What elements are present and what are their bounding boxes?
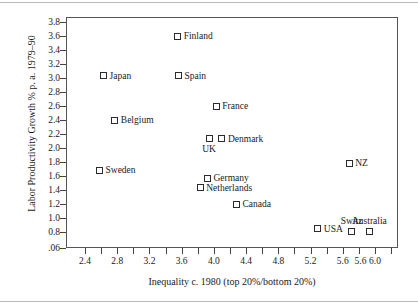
- y-axis-tick: [60, 232, 66, 233]
- y-axis-tick-label: 2.8: [34, 87, 60, 97]
- page-rule-top: [0, 2, 418, 3]
- x-axis-tick-label: 2.8: [102, 256, 132, 267]
- y-axis-tick-label: 0.8: [34, 227, 60, 237]
- x-axis-tick: [101, 248, 102, 254]
- data-point-label: Sweden: [106, 165, 136, 175]
- y-axis-tick-label: 2.0: [34, 143, 60, 153]
- x-axis-tick-label: 5.2: [296, 256, 326, 267]
- x-axis-tick-label: 2.4: [70, 256, 100, 267]
- x-axis-tick: [166, 248, 167, 254]
- x-axis-tick-label: 4.4: [231, 256, 261, 267]
- data-point-marker: [213, 103, 220, 110]
- x-axis-tick: [327, 248, 328, 254]
- x-axis-tick: [262, 248, 263, 254]
- y-axis-tick: [60, 248, 66, 249]
- x-axis-title: Inequality c. 1980 (top 20%/bottom 20%): [66, 276, 398, 287]
- data-point-label: Spain: [184, 71, 206, 81]
- x-axis-tick: [149, 248, 150, 254]
- y-axis-tick-label: .06: [34, 243, 60, 253]
- x-axis-tick: [85, 248, 86, 254]
- data-point-marker: [366, 228, 373, 235]
- x-axis-tick: [133, 248, 134, 254]
- y-axis-tick-label: 1.0: [34, 213, 60, 223]
- y-axis-tick-label: 2.4: [34, 115, 60, 125]
- y-axis-tick: [60, 162, 66, 163]
- y-axis-tick: [60, 190, 66, 191]
- data-point-marker: [314, 225, 321, 232]
- x-axis-tick-label: 3.2: [134, 256, 164, 267]
- data-point-marker: [206, 135, 213, 142]
- data-point-marker: [233, 201, 240, 208]
- data-point-label: NZ: [355, 158, 368, 168]
- y-axis-tick: [60, 78, 66, 79]
- y-axis-tick-label: 3.4: [34, 45, 60, 55]
- y-axis-tick-label: 1.4: [34, 185, 60, 195]
- y-axis-tick-label: 1.8: [34, 157, 60, 167]
- y-axis-tick: [60, 176, 66, 177]
- x-axis-tick: [359, 248, 360, 254]
- data-point-label: Japan: [110, 71, 132, 81]
- data-point-marker: [348, 228, 355, 235]
- page-rule-bottom: [0, 301, 418, 302]
- data-point-label: Australia: [352, 216, 387, 226]
- x-axis-tick: [311, 248, 312, 254]
- data-point-label: Belgium: [121, 115, 154, 125]
- data-point-label: France: [222, 101, 248, 111]
- y-axis-tick: [60, 120, 66, 121]
- x-axis-tick: [117, 248, 118, 254]
- x-axis-tick-label: 3.6: [167, 256, 197, 267]
- y-axis-tick-label: 1.6: [34, 171, 60, 181]
- data-point-marker: [175, 72, 182, 79]
- x-axis-tick: [391, 248, 392, 254]
- x-axis-tick: [214, 248, 215, 254]
- data-point-marker: [100, 72, 107, 79]
- y-axis-tick: [60, 36, 66, 37]
- y-axis-tick-label: 3.2: [34, 59, 60, 69]
- y-axis-tick: [60, 92, 66, 93]
- x-axis-tick: [375, 248, 376, 254]
- y-axis-tick: [60, 204, 66, 205]
- y-axis-tick-label: 1.2: [34, 199, 60, 209]
- y-axis-tick-label: 3.8: [34, 17, 60, 27]
- data-point-label: Finland: [184, 31, 213, 41]
- data-point-marker: [218, 135, 225, 142]
- x-axis-tick: [278, 248, 279, 254]
- data-point-marker: [111, 117, 118, 124]
- y-axis-tick-label: 3.0: [34, 73, 60, 83]
- y-axis-tick: [60, 134, 66, 135]
- x-axis-tick: [198, 248, 199, 254]
- data-point-label: Netherlands: [206, 183, 252, 193]
- data-point-label: Canada: [242, 199, 271, 209]
- data-point-label: UK: [202, 144, 216, 154]
- y-axis-title: Labor Productivity Growth % p. a. 1979–9…: [26, 9, 37, 239]
- data-point-label: Denmark: [228, 134, 263, 144]
- y-axis-tick: [60, 106, 66, 107]
- x-axis-tick: [182, 248, 183, 254]
- y-axis-tick: [60, 50, 66, 51]
- data-point-marker: [346, 160, 353, 167]
- data-point-marker: [197, 184, 204, 191]
- y-axis-tick-label: 2.6: [34, 101, 60, 111]
- data-point-marker: [96, 167, 103, 174]
- y-axis-tick-label: 3.6: [34, 31, 60, 41]
- x-axis-tick: [294, 248, 295, 254]
- y-axis-tick: [60, 148, 66, 149]
- x-axis-tick: [246, 248, 247, 254]
- x-axis-tick-label: 6.0: [360, 256, 390, 267]
- y-axis-tick: [60, 218, 66, 219]
- x-axis-tick-label: 4.8: [263, 256, 293, 267]
- scatter-chart-figure: 3.83.63.43.23.02.82.62.42.22.01.81.61.41…: [0, 0, 418, 307]
- y-axis-tick-label: 2.2: [34, 129, 60, 139]
- data-point-marker: [204, 175, 211, 182]
- x-axis-tick-label: 4.0: [199, 256, 229, 267]
- x-axis-tick: [343, 248, 344, 254]
- data-point-marker: [174, 33, 181, 40]
- y-axis-tick: [60, 22, 66, 23]
- x-axis-tick: [230, 248, 231, 254]
- data-point-label: Germany: [213, 173, 248, 183]
- plot-area: [66, 17, 398, 248]
- y-axis-tick: [60, 64, 66, 65]
